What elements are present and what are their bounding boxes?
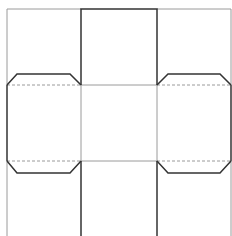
panel-top-center-outline (81, 9, 157, 85)
flap-top-right (157, 74, 231, 85)
fold-lines (7, 9, 231, 236)
box-dieline-diagram (0, 0, 232, 236)
flap-top-left (7, 74, 81, 85)
cut-lines (7, 9, 231, 236)
flap-bottom-right (157, 161, 231, 173)
flap-bottom-left (7, 161, 81, 173)
